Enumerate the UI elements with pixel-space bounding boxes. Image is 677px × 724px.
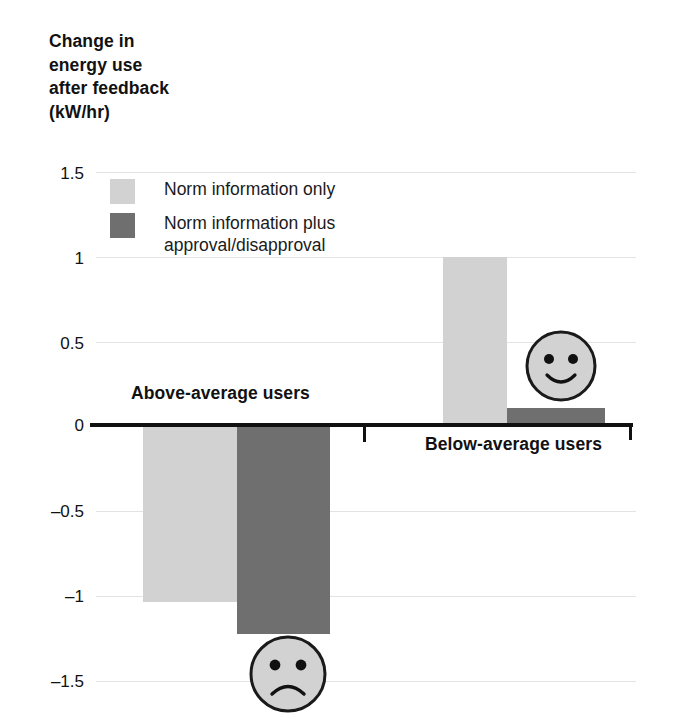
y-tick-label-0: 0 bbox=[28, 417, 84, 434]
chart-figure: Change in energy use after feedback (kW/… bbox=[0, 0, 677, 724]
bar-below-average-norm-plus-approval bbox=[507, 408, 605, 423]
y-tick-label-neg0.5: –0.5 bbox=[28, 503, 84, 520]
category-label-below-average: Below-average users bbox=[425, 434, 602, 455]
gridline-1.5 bbox=[96, 172, 636, 173]
y-tick-neg1.5: –1.5 bbox=[28, 673, 84, 690]
y-tick-label-1.5: 1.5 bbox=[28, 165, 84, 182]
y-tick-label-0.5: 0.5 bbox=[28, 335, 84, 352]
legend-label-norm-plus-approval: Norm information plus approval/disapprov… bbox=[164, 212, 335, 256]
y-tick-1: 1 bbox=[28, 250, 84, 267]
legend-item-norm-plus-approval: Norm information plus approval/disapprov… bbox=[110, 212, 335, 256]
sad-face-icon bbox=[245, 633, 331, 715]
category-label-above-average: Above-average users bbox=[131, 383, 310, 404]
y-tick-label-neg1: –1 bbox=[28, 588, 84, 605]
plot-area: 1.5 1 0.5 0 –0.5 –1 –1.5 bbox=[0, 0, 677, 724]
dark-gray-swatch-icon bbox=[110, 213, 135, 238]
bar-above-average-norm-only bbox=[143, 427, 237, 602]
bar-below-average-norm-only bbox=[443, 257, 507, 423]
y-tick-1.5: 1.5 bbox=[28, 165, 84, 182]
y-tick-label-1: 1 bbox=[28, 250, 84, 267]
y-tick-neg0.5: –0.5 bbox=[28, 503, 84, 520]
y-tick-0: 0 bbox=[28, 417, 84, 434]
y-tick-label-neg1.5: –1.5 bbox=[28, 673, 84, 690]
legend-label-norm-only: Norm information only bbox=[164, 178, 335, 200]
y-tick-neg1: –1 bbox=[28, 588, 84, 605]
gridline-neg1.5 bbox=[96, 681, 636, 682]
zero-axis-end-tick bbox=[629, 423, 632, 440]
zero-axis-mid-tick bbox=[363, 427, 366, 442]
legend: Norm information only Norm information p… bbox=[110, 178, 335, 264]
legend-item-norm-only: Norm information only bbox=[110, 178, 335, 204]
y-tick-0.5: 0.5 bbox=[28, 335, 84, 352]
zero-axis-line bbox=[90, 423, 633, 427]
smiley-face-icon bbox=[523, 328, 599, 404]
bar-above-average-norm-plus-approval bbox=[237, 427, 330, 634]
light-gray-swatch-icon bbox=[110, 179, 135, 204]
